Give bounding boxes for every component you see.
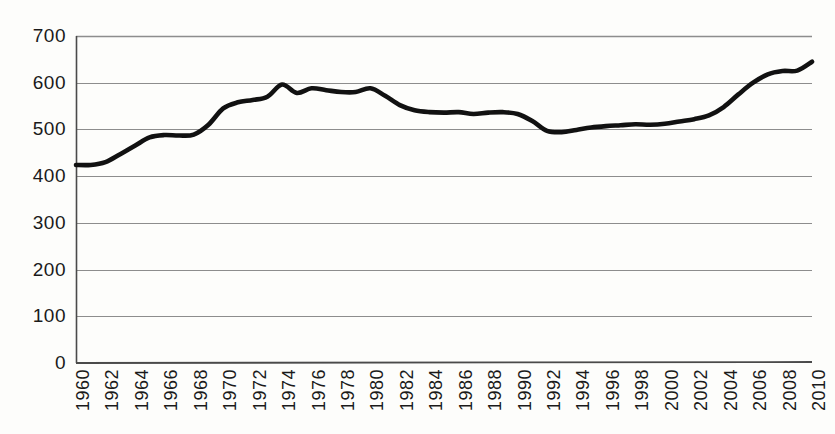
x-tick-label: 1968 [192,369,210,411]
x-tick-label: 1998 [633,369,651,411]
x-tick-label: 1990 [516,369,534,411]
x-tick-label: 2010 [810,369,828,411]
x-tick-label: 1970 [221,369,239,411]
x-tick-label: 2004 [722,369,740,411]
x-tick-label: 1976 [310,369,328,411]
x-tick-label: 1978 [339,369,357,411]
chart-page: 0100200300400500600700 19601962196419661… [0,0,835,434]
x-tick-label: 1980 [368,369,386,411]
x-tick-label: 1974 [280,369,298,411]
x-tick-label: 1972 [251,369,269,411]
x-tick-label: 1996 [604,369,622,411]
x-tick-label: 1960 [74,369,92,411]
x-tick-label: 2006 [751,369,769,411]
x-tick-label: 2000 [663,369,681,411]
x-tick-label: 1992 [545,369,563,411]
x-tick-label: 2008 [781,369,799,411]
x-tick-label: 1966 [162,369,180,411]
x-tick-label: 1984 [427,369,445,411]
x-tick-label: 1988 [486,369,504,411]
x-tick-label: 1962 [103,369,121,411]
x-tick-label: 1994 [574,369,592,411]
x-axis-tick-labels: 1960196219641966196819701972197419761978… [0,0,835,434]
x-tick-label: 1964 [133,369,151,411]
x-tick-label: 1986 [457,369,475,411]
x-tick-label: 1982 [398,369,416,411]
x-tick-label: 2002 [692,369,710,411]
